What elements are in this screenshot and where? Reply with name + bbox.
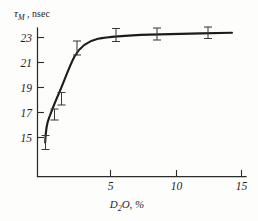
error-bars-group: [42, 27, 213, 150]
y-tick-label-17: 17: [21, 107, 34, 119]
y-tick-label-15: 15: [21, 132, 33, 144]
svg-text:D2O, %: D2O, %: [109, 198, 145, 213]
tau-m-curve: [45, 33, 232, 143]
y-tick-marks: [38, 38, 45, 138]
x-tick-label-5: 5: [108, 180, 114, 192]
chart-canvas: 23 21 19 17 15 5 10 15: [0, 0, 258, 221]
y-tick-labels: 23 21 19 17 15: [21, 32, 34, 144]
y-tick-label-19: 19: [21, 82, 33, 94]
x-axis-symbol: D: [109, 198, 118, 210]
error-bar-point-5: [112, 29, 120, 42]
data-curve-group: [45, 33, 232, 143]
y-axis-title: τM , nsec: [14, 7, 50, 22]
x-tick-marks: [111, 170, 242, 177]
y-tick-label-21: 21: [21, 57, 33, 69]
x-axis-title: D2O, %: [109, 198, 145, 213]
y-axis-unit: , nsec: [25, 8, 51, 19]
chart-figure: 23 21 19 17 15 5 10 15: [0, 0, 258, 221]
y-tick-label-23: 23: [21, 32, 33, 44]
x-tick-label-10: 10: [171, 180, 183, 192]
axes-group: [38, 28, 247, 177]
x-tick-labels: 5 10 15: [108, 180, 248, 192]
svg-text:τM , nsec: τM , nsec: [14, 7, 50, 22]
x-tick-label-15: 15: [236, 180, 248, 192]
x-axis-rest: O, %: [122, 198, 145, 210]
